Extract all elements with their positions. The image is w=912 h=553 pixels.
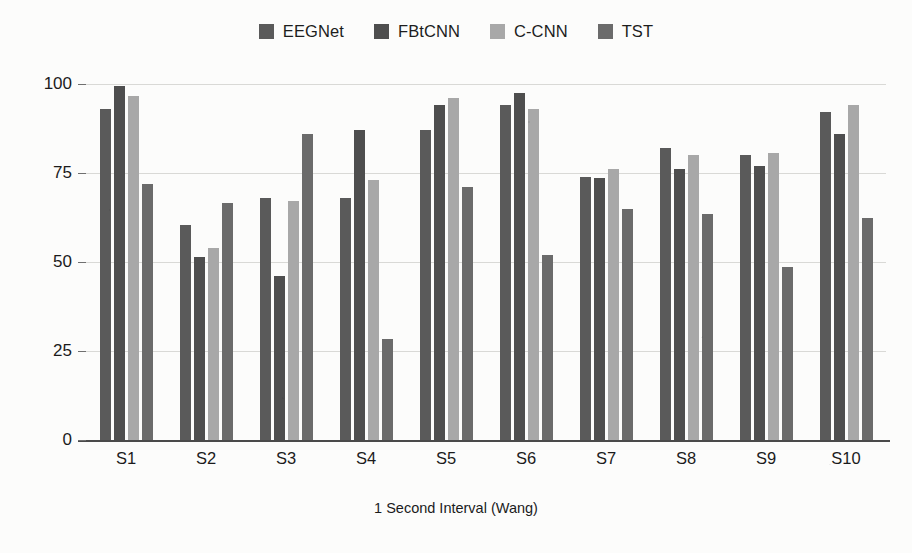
bar-group-s6 (486, 84, 566, 440)
y-axis-tick-label: 75 (53, 163, 72, 183)
bar-fbtcnn-s8[interactable] (674, 169, 685, 440)
bar-c-cnn-s3[interactable] (288, 201, 299, 440)
y-axis-tick-label: 0 (63, 430, 72, 450)
bar-c-cnn-s2[interactable] (208, 248, 219, 440)
bar-group-s1 (86, 84, 166, 440)
bar-fbtcnn-s1[interactable] (114, 86, 125, 440)
y-tick-mark (78, 262, 86, 263)
x-axis-tick-label-s3: S3 (246, 449, 326, 468)
bar-fbtcnn-s6[interactable] (514, 93, 525, 440)
x-axis-tick-label-s6: S6 (486, 449, 566, 468)
x-axis-tick-label-s7: S7 (566, 449, 646, 468)
bar-fbtcnn-s9[interactable] (754, 166, 765, 440)
bar-eegnet-s8[interactable] (660, 148, 671, 440)
x-axis-tick-label-s8: S8 (646, 449, 726, 468)
bar-group-s5 (406, 84, 486, 440)
bar-c-cnn-s4[interactable] (368, 180, 379, 440)
bar-fbtcnn-s7[interactable] (594, 178, 605, 440)
bar-fbtcnn-s5[interactable] (434, 105, 445, 440)
bar-c-cnn-s6[interactable] (528, 109, 539, 440)
x-axis-tick-label-s5: S5 (406, 449, 486, 468)
bar-fbtcnn-s10[interactable] (834, 134, 845, 440)
bar-group-s10 (806, 84, 886, 440)
bar-fbtcnn-s2[interactable] (194, 257, 205, 440)
y-tick-mark (78, 351, 86, 352)
bar-c-cnn-s1[interactable] (128, 96, 139, 440)
bar-c-cnn-s10[interactable] (848, 105, 859, 440)
x-axis-title: 1 Second Interval (Wang) (0, 500, 912, 516)
x-axis-tick-labels: S1S2S3S4S5S6S7S8S9S10 (86, 449, 886, 468)
y-axis: 0255075100 (0, 0, 72, 553)
y-tick-mark (78, 84, 86, 85)
bar-eegnet-s2[interactable] (180, 225, 191, 440)
bar-tst-s1[interactable] (142, 184, 153, 440)
bar-c-cnn-s5[interactable] (448, 98, 459, 440)
bar-eegnet-s6[interactable] (500, 105, 511, 440)
y-tick-mark (78, 173, 86, 174)
bar-eegnet-s5[interactable] (420, 130, 431, 440)
bar-tst-s2[interactable] (222, 203, 233, 440)
bar-tst-s10[interactable] (862, 218, 873, 441)
y-axis-tick-label: 100 (44, 74, 72, 94)
bar-groups (86, 84, 886, 440)
bar-group-s7 (566, 84, 646, 440)
bar-tst-s7[interactable] (622, 209, 633, 440)
bar-group-s4 (326, 84, 406, 440)
bar-c-cnn-s9[interactable] (768, 153, 779, 440)
x-axis-tick-label-s9: S9 (726, 449, 806, 468)
bar-fbtcnn-s3[interactable] (274, 276, 285, 440)
bar-tst-s6[interactable] (542, 255, 553, 440)
bar-fbtcnn-s4[interactable] (354, 130, 365, 440)
bar-eegnet-s10[interactable] (820, 112, 831, 440)
y-axis-tick-label: 25 (53, 341, 72, 361)
bar-c-cnn-s7[interactable] (608, 169, 619, 440)
bar-group-s3 (246, 84, 326, 440)
bar-tst-s4[interactable] (382, 339, 393, 440)
x-axis-tick-label-s1: S1 (86, 449, 166, 468)
x-axis-baseline (78, 440, 890, 442)
bar-group-s9 (726, 84, 806, 440)
bar-eegnet-s1[interactable] (100, 109, 111, 440)
x-axis-tick-label-s2: S2 (166, 449, 246, 468)
x-axis-tick-label-s10: S10 (806, 449, 886, 468)
bar-tst-s5[interactable] (462, 187, 473, 440)
bar-group-s8 (646, 84, 726, 440)
y-axis-tick-label: 50 (53, 252, 72, 272)
y-tick-mark (78, 440, 86, 441)
bar-eegnet-s3[interactable] (260, 198, 271, 440)
bar-eegnet-s4[interactable] (340, 198, 351, 440)
bar-eegnet-s7[interactable] (580, 177, 591, 440)
bar-tst-s9[interactable] (782, 267, 793, 440)
plot-area: 0255075100 S1S2S3S4S5S6S7S8S9S10 1 Secon… (0, 0, 912, 553)
bar-tst-s8[interactable] (702, 214, 713, 440)
bar-eegnet-s9[interactable] (740, 155, 751, 440)
bar-chart: EEGNetFBtCNNC-CNNTST 0255075100 S1S2S3S4… (0, 0, 912, 553)
bar-c-cnn-s8[interactable] (688, 155, 699, 440)
bar-tst-s3[interactable] (302, 134, 313, 440)
x-axis-tick-label-s4: S4 (326, 449, 406, 468)
bar-group-s2 (166, 84, 246, 440)
